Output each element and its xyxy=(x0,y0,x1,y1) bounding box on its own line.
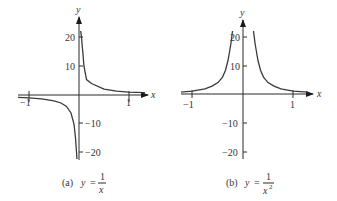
x-tick-label: 1 xyxy=(290,99,295,110)
x-ticks: −1 1 xyxy=(20,91,131,108)
caption-numerator: 1 xyxy=(266,171,271,182)
curve-reciprocal-positive xyxy=(81,31,145,93)
caption-b: (b) y = 1 x 2 xyxy=(226,171,274,196)
caption-exponent: 2 xyxy=(269,183,273,191)
y-tick-label: −20 xyxy=(85,147,101,158)
x-tick-label: −1 xyxy=(20,97,31,108)
caption-prefix: (b) xyxy=(226,177,238,189)
caption-a: (a) y = 1 x xyxy=(62,171,106,195)
x-ticks: −1 1 xyxy=(183,90,295,110)
y-tick-label: 20 xyxy=(65,32,75,43)
panel-b-inverse-square-plot: x y −1 1 20 10 −10 −20 (b) y = 1 x xyxy=(181,7,322,196)
x-axis-label: x xyxy=(316,88,322,99)
y-axis-label: y xyxy=(239,7,245,18)
caption-eq: = xyxy=(254,177,260,188)
x-tick-label: −1 xyxy=(183,99,194,110)
x-tick-label: 1 xyxy=(126,97,131,108)
y-tick-label: −10 xyxy=(222,118,238,129)
panel-a-reciprocal-plot: x y −1 1 20 10 −10 −20 (a) y = 1 x xyxy=(18,4,156,195)
x-axis-label: x xyxy=(150,89,156,100)
caption-prefix: (a) xyxy=(62,177,73,189)
y-axis-label: y xyxy=(75,4,81,15)
caption-denominator: x xyxy=(262,185,268,196)
caption-lhs: y xyxy=(80,177,86,188)
caption-denominator: x xyxy=(98,184,104,195)
curve-inverse-square-positive xyxy=(254,31,309,92)
y-tick-label: −10 xyxy=(85,118,101,129)
caption-eq: = xyxy=(90,177,96,188)
caption-lhs: y xyxy=(244,177,250,188)
caption-numerator: 1 xyxy=(100,171,105,182)
figure: x y −1 1 20 10 −10 −20 (a) y = 1 x xyxy=(0,0,337,201)
y-tick-label: −20 xyxy=(222,147,238,158)
curve-inverse-square-negative xyxy=(181,31,233,92)
y-tick-label: 10 xyxy=(65,61,75,72)
y-tick-label: 10 xyxy=(230,61,240,72)
